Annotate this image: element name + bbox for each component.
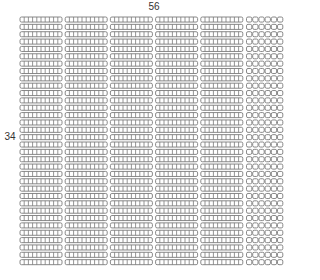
ten-rod	[20, 91, 62, 96]
block-row	[20, 223, 283, 228]
unit-cube	[265, 135, 270, 140]
unit-cube	[247, 54, 252, 59]
ten-rod	[20, 164, 62, 169]
block-row	[20, 252, 283, 257]
unit-cube	[247, 46, 252, 51]
ten-rod	[201, 32, 243, 37]
block-row	[20, 113, 283, 118]
unit-cube	[265, 238, 270, 243]
block-row	[20, 208, 283, 213]
unit-cube	[247, 120, 252, 125]
unit-cube	[253, 39, 258, 44]
ten-rod	[65, 245, 107, 250]
ten-rod	[110, 39, 152, 44]
block-row	[20, 83, 283, 88]
unit-cube	[253, 24, 258, 29]
ten-rod	[110, 164, 152, 169]
ten-rod	[20, 208, 62, 213]
unit-cube	[271, 91, 276, 96]
unit-cube	[278, 135, 283, 140]
unit-cube	[271, 105, 276, 110]
ten-rod	[201, 238, 243, 243]
ten-rod	[65, 186, 107, 191]
block-row	[20, 105, 283, 110]
block-row	[20, 120, 283, 125]
ten-rod	[20, 201, 62, 206]
ten-rod	[65, 179, 107, 184]
unit-cube	[278, 46, 283, 51]
ten-rod	[110, 91, 152, 96]
ten-rod	[110, 98, 152, 103]
ten-rod	[110, 193, 152, 198]
unit-cube	[247, 223, 252, 228]
unit-cube	[271, 32, 276, 37]
unit-cube	[247, 127, 252, 132]
ten-rod	[20, 98, 62, 103]
ten-rod	[156, 230, 198, 235]
ten-rod	[65, 230, 107, 235]
block-row	[20, 39, 283, 44]
ten-rod	[156, 164, 198, 169]
unit-cube	[271, 127, 276, 132]
unit-cube	[253, 91, 258, 96]
unit-cube	[278, 238, 283, 243]
unit-cube	[247, 76, 252, 81]
ten-rod	[156, 61, 198, 66]
ten-rod	[156, 68, 198, 73]
ten-rod	[110, 46, 152, 51]
ten-rod	[20, 54, 62, 59]
block-row	[20, 164, 283, 169]
unit-cube	[271, 216, 276, 221]
unit-cube	[278, 98, 283, 103]
unit-cube	[278, 216, 283, 221]
ten-rod	[110, 252, 152, 257]
ten-rod	[20, 230, 62, 235]
unit-cube	[253, 179, 258, 184]
unit-cube	[253, 260, 258, 265]
ten-rod	[110, 17, 152, 22]
unit-cube	[265, 186, 270, 191]
unit-cube	[271, 113, 276, 118]
unit-cube	[278, 157, 283, 162]
ten-rod	[20, 135, 62, 140]
unit-cube	[259, 252, 264, 257]
unit-cube	[265, 208, 270, 213]
unit-cube	[265, 105, 270, 110]
unit-cube	[278, 223, 283, 228]
unit-cube	[259, 157, 264, 162]
unit-cube	[265, 120, 270, 125]
unit-cube	[271, 208, 276, 213]
ten-rod	[201, 105, 243, 110]
ten-rod	[201, 39, 243, 44]
ten-rod	[156, 260, 198, 265]
unit-cube	[247, 91, 252, 96]
unit-cube	[259, 208, 264, 213]
unit-cube	[247, 98, 252, 103]
unit-cube	[259, 54, 264, 59]
unit-cube	[253, 252, 258, 257]
ten-rod	[110, 142, 152, 147]
ten-rod	[201, 171, 243, 176]
unit-cube	[247, 216, 252, 221]
unit-cube	[265, 193, 270, 198]
unit-cube	[271, 54, 276, 59]
unit-cube	[253, 201, 258, 206]
unit-cube	[278, 142, 283, 147]
unit-cube	[271, 164, 276, 169]
unit-cube	[259, 164, 264, 169]
block-row	[20, 76, 283, 81]
unit-cube	[247, 179, 252, 184]
unit-cube	[265, 39, 270, 44]
ten-rod	[110, 24, 152, 29]
unit-cube	[253, 83, 258, 88]
ten-rod	[156, 39, 198, 44]
ten-rod	[201, 142, 243, 147]
block-row	[20, 260, 283, 265]
ten-rod	[201, 208, 243, 213]
ten-rod	[110, 186, 152, 191]
ten-rod	[20, 157, 62, 162]
unit-cube	[247, 245, 252, 250]
unit-cube	[247, 230, 252, 235]
unit-cube	[265, 83, 270, 88]
ten-rod	[20, 245, 62, 250]
